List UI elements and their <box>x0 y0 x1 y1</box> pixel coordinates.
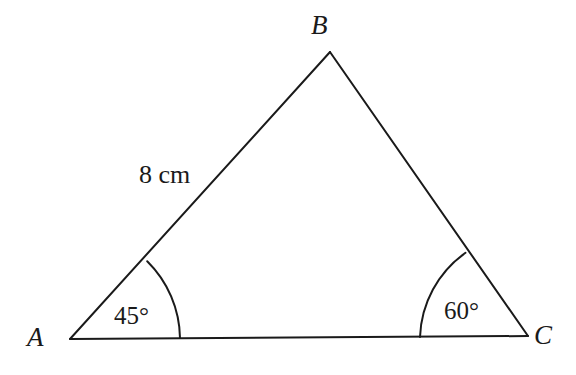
vertex-label-a: A <box>27 324 44 351</box>
vertex-label-b: B <box>311 12 328 39</box>
angle-measure-label-a: 45° <box>114 303 149 328</box>
side-bc-line <box>330 52 528 336</box>
side-length-label-ab: 8 cm <box>139 162 190 188</box>
angle-measure-label-c: 60° <box>444 298 479 323</box>
vertex-label-c: C <box>534 322 552 349</box>
side-ac-line <box>70 336 528 339</box>
side-ab-line <box>70 52 330 339</box>
angle-arc-a <box>147 261 180 338</box>
angle-arc-c <box>420 253 466 337</box>
triangle-diagram: A B C 8 cm 45° 60° <box>0 0 576 375</box>
figure-canvas <box>0 0 576 375</box>
